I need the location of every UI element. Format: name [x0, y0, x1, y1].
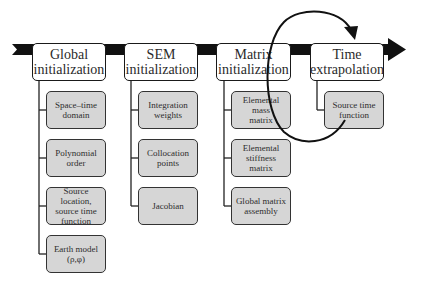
- stage-label: SEM initialization: [126, 47, 197, 77]
- step-label: Elemental stiffness matrix: [234, 143, 288, 173]
- step-label: Source time function: [332, 100, 375, 120]
- stage-label: Time extrapolation: [310, 47, 384, 77]
- step-label: Integration weights: [148, 100, 188, 120]
- step-label: Space–time domain: [55, 100, 97, 120]
- stage-global-initialization: Global initialization: [32, 43, 106, 81]
- step-source-location: Source location, source time function: [46, 187, 106, 225]
- step-global-matrix-assembly: Global matrix assembly: [231, 187, 291, 225]
- step-space-time-domain: Space–time domain: [46, 91, 106, 129]
- step-label: Earth model (ρ,φ): [54, 244, 98, 264]
- stage-label: Global initialization: [34, 47, 105, 77]
- step-label: Jacobian: [152, 201, 184, 211]
- step-label: Collocation points: [147, 148, 189, 168]
- step-label: Global matrix assembly: [236, 196, 286, 216]
- step-earth-model: Earth model (ρ,φ): [46, 235, 106, 273]
- step-label: Source location, source time function: [49, 186, 103, 226]
- stage-matrix-initialization: Matrix initialization: [216, 43, 291, 81]
- step-integration-weights: Integration weights: [138, 91, 198, 129]
- step-jacobian: Jacobian: [138, 187, 198, 225]
- diagram-canvas: Global initialization Space–time domain …: [0, 0, 424, 285]
- stage-sem-initialization: SEM initialization: [124, 43, 198, 81]
- step-elemental-mass-matrix: Elemental mass matrix: [231, 91, 291, 129]
- step-elemental-stiffness-matrix: Elemental stiffness matrix: [231, 139, 291, 177]
- step-label: Elemental mass matrix: [234, 95, 288, 125]
- step-source-time-function: Source time function: [324, 91, 384, 129]
- stage-label: Matrix initialization: [218, 47, 289, 77]
- stage-time-extrapolation: Time extrapolation: [310, 43, 384, 81]
- step-collocation-points: Collocation points: [138, 139, 198, 177]
- step-polynomial-order: Polynomial order: [46, 139, 106, 177]
- step-label: Polynomial order: [55, 148, 97, 168]
